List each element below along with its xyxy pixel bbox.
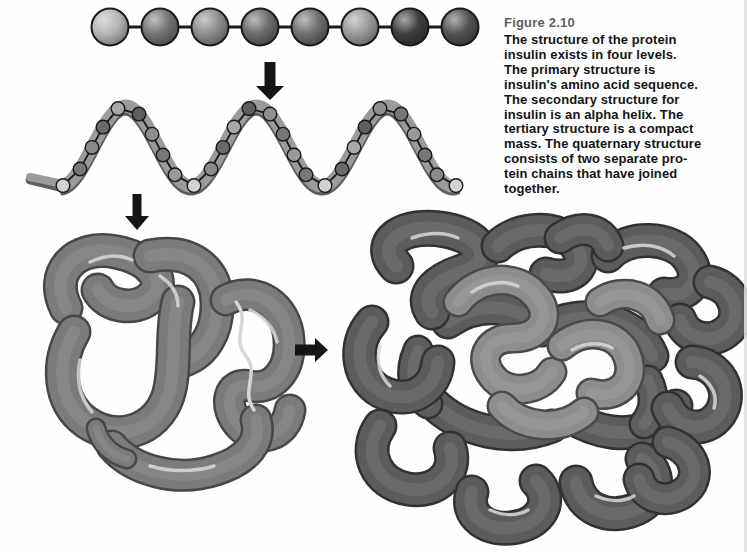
figure-caption: Figure 2.10 The structure of the protein… <box>504 15 739 197</box>
secondary-structure-alpha-helix <box>30 102 463 193</box>
down-arrow-icon <box>256 62 284 100</box>
figure-caption-text: The structure of the protein insulin exi… <box>504 33 739 197</box>
quaternary-structure-joined-chains <box>360 228 736 528</box>
figure-label: Figure 2.10 <box>504 15 739 30</box>
primary-structure-amino-acid-chain <box>92 9 479 46</box>
down-arrow-icon <box>125 194 149 230</box>
textbook-figure-page: Figure 2.10 The structure of the protein… <box>0 0 747 552</box>
tertiary-structure-compact-mass <box>60 251 290 476</box>
